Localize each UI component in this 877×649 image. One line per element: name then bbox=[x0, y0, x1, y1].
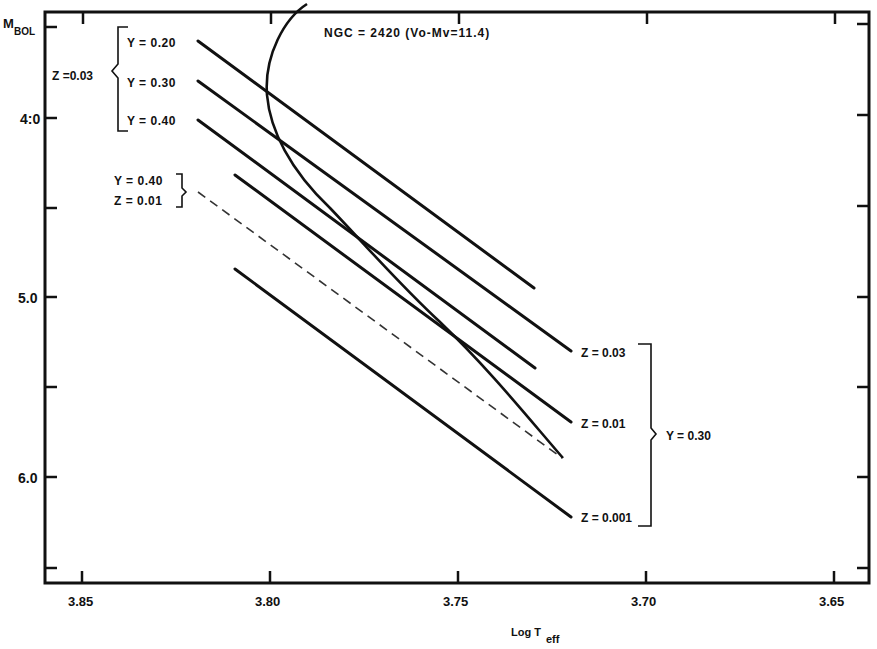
isochrone-lines bbox=[198, 41, 571, 517]
x-tick-label-3-65: 3.65 bbox=[819, 594, 844, 609]
y-axis-title: M BOL bbox=[3, 16, 35, 37]
hr-diagram-chart: 4:0 5.0 6.0 3.85 3.80 3.75 3.70 3.65 M B… bbox=[0, 0, 877, 649]
y-tick-label-4-0: 4:0 bbox=[20, 111, 40, 127]
line-z001-y030 bbox=[235, 175, 571, 422]
line-z003-y020 bbox=[198, 41, 534, 288]
left-brace bbox=[112, 27, 128, 131]
x-ticks-top bbox=[83, 12, 835, 24]
y-ticks-right bbox=[857, 24, 869, 568]
svg-text:Log T: Log T bbox=[511, 626, 541, 638]
label-y040: Y = 0.40 bbox=[127, 114, 176, 128]
line-z003-y030 bbox=[198, 81, 571, 351]
svg-text:BOL: BOL bbox=[14, 26, 35, 37]
x-tick-label-3-70: 3.70 bbox=[631, 594, 656, 609]
y-ticks-left bbox=[45, 27, 57, 568]
label-right-z003: Z = 0.03 bbox=[581, 346, 626, 360]
x-tick-label-3-85: 3.85 bbox=[68, 594, 93, 609]
y-tick-label-6-0: 6.0 bbox=[18, 470, 38, 486]
right-brace bbox=[638, 344, 656, 526]
label-group-y030: Y = 0.30 bbox=[666, 429, 711, 443]
label-group-z003: Z =0.03 bbox=[52, 69, 93, 83]
x-ticks-bottom bbox=[82, 571, 834, 583]
label-y030: Y = 0.30 bbox=[127, 76, 176, 90]
x-tick-label-3-75: 3.75 bbox=[443, 594, 468, 609]
line-z003-y040 bbox=[198, 120, 535, 368]
label-dash-y040: Y = 0.40 bbox=[114, 174, 163, 188]
label-right-z0001: Z = 0.001 bbox=[581, 511, 632, 525]
chart-title: NGC = 2420 (Vo-Mv=11.4) bbox=[324, 26, 490, 40]
svg-text:M: M bbox=[3, 16, 14, 31]
plot-frame bbox=[45, 12, 869, 583]
x-axis-title: Log T eff bbox=[511, 626, 560, 645]
label-y020: Y = 0.20 bbox=[127, 36, 176, 50]
y-tick-label-5-0: 5.0 bbox=[18, 290, 38, 306]
svg-text:eff: eff bbox=[546, 633, 560, 645]
line-z0001-y030 bbox=[235, 269, 571, 517]
line-z001-y040-dashed bbox=[198, 192, 562, 458]
dash-bracket bbox=[176, 174, 186, 207]
label-right-z001: Z = 0.01 bbox=[581, 417, 626, 431]
x-tick-label-3-80: 3.80 bbox=[255, 594, 280, 609]
label-dash-z001: Z = 0.01 bbox=[114, 194, 162, 208]
